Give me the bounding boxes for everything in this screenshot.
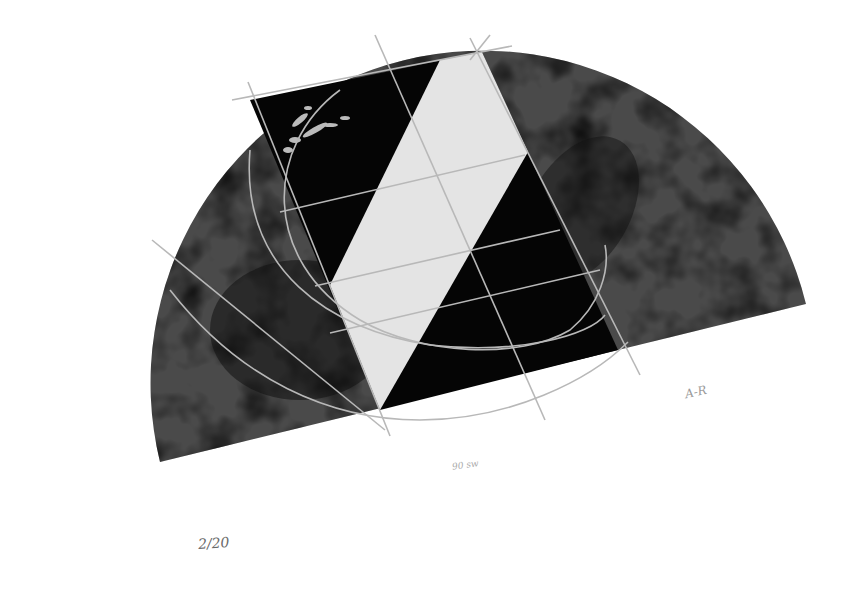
artwork-canvas: [0, 0, 853, 590]
edition-number: 2/20: [197, 534, 229, 552]
